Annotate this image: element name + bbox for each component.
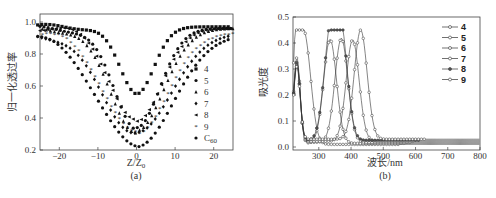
legend-item: 7 [461, 54, 466, 64]
y-tick-label: 0.6 [25, 81, 37, 91]
y-tick-label: 0.1 [278, 116, 289, 126]
series-4 [292, 29, 479, 146]
series-5 [292, 39, 479, 144]
legend-item: 4 [204, 64, 209, 74]
chart-a: 0.20.40.60.81.0 −20−1001020 ************… [6, 14, 235, 182]
x-axis-label-a: Z/Z0 [127, 157, 146, 170]
y-tick-label: 0.0 [278, 142, 290, 152]
y-tick-label: 0.3 [278, 64, 290, 74]
series-8 [292, 29, 479, 142]
caption-b: (b) [379, 170, 391, 182]
legend-item: 9 [461, 75, 466, 85]
plot-frame-b [293, 17, 480, 150]
legend-b: 456789 [442, 22, 466, 85]
x-tick-label: −10 [91, 151, 106, 161]
chart-b: 0.00.10.20.30.40.5 300400500600700800 45… [257, 12, 487, 182]
svg-text:*: * [162, 98, 166, 106]
legend-item: 5 [461, 33, 466, 43]
x-tick-label: 20 [209, 151, 219, 161]
svg-text:*: * [194, 123, 198, 131]
legend-item: 6 [204, 87, 209, 97]
svg-text:*: * [174, 74, 178, 82]
series-7 [292, 40, 479, 143]
svg-text:*: * [170, 82, 174, 90]
legend-item: 8 [204, 110, 209, 120]
legend-a: 45678*9C60 [194, 64, 218, 145]
x-tick-label: 400 [344, 151, 358, 161]
x-tick-label: 700 [441, 151, 455, 161]
legend-item: 9 [204, 122, 209, 132]
legend-item: 6 [461, 43, 466, 53]
series-6 [292, 38, 479, 143]
legend-item: 4 [461, 22, 466, 32]
x-axis-label-b: 波长/nm [367, 156, 403, 168]
y-tick-label: 0.2 [278, 90, 289, 100]
x-tick-label: 300 [312, 151, 326, 161]
legend-item: 8 [461, 64, 466, 74]
svg-text:*: * [158, 105, 162, 113]
caption-a: (a) [130, 170, 141, 182]
spectra-lines [292, 29, 479, 146]
svg-text:*: * [231, 30, 235, 38]
series-9 [292, 29, 479, 141]
y-tick-label: 0.8 [25, 49, 37, 59]
x-tick-label: 800 [473, 151, 487, 161]
x-tick-label: 600 [409, 151, 423, 161]
y-tick-label: 0.5 [278, 12, 290, 22]
y-tick-label: 1.0 [25, 17, 37, 27]
svg-text:*: * [166, 90, 170, 98]
legend-item: C60 [204, 133, 218, 145]
y-tick-label: 0.4 [278, 38, 290, 48]
y-axis-label-b: 吸光度 [257, 67, 269, 97]
figure: 0.20.40.60.81.0 −20−1001020 ************… [0, 0, 496, 198]
y-axis-label-a: 归一化透过率 [6, 52, 18, 112]
y-tick-label: 0.2 [25, 145, 36, 155]
svg-text:*: * [154, 113, 158, 121]
y-tick-label: 0.4 [25, 113, 37, 123]
x-tick-label: −20 [52, 151, 67, 161]
legend-item: 7 [204, 99, 209, 109]
legend-item: 5 [204, 76, 209, 86]
x-tick-label: 10 [171, 151, 181, 161]
